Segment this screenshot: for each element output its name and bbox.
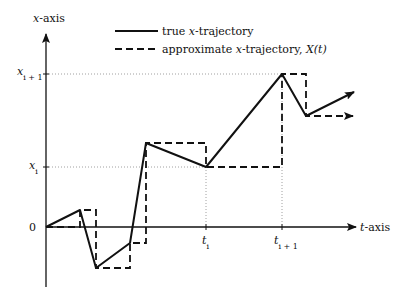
true-trajectory [46, 74, 354, 268]
approximate-trajectory [46, 74, 353, 268]
legend: true x-trajectory approximate x-trajecto… [115, 25, 327, 56]
x-axis-label: x-axis [33, 12, 65, 25]
dotted-guides [49, 74, 282, 224]
trajectory-diagram: x-axis t-axis 0 xi + 1 xi ti ti + 1 true… [0, 0, 407, 300]
y-tick-x-i: xi [29, 159, 38, 176]
t-axis-label: t-axis [360, 221, 390, 234]
origin-label: 0 [29, 221, 36, 234]
t-tick-t-i: ti [202, 234, 209, 251]
legend-solid-label: true x-trajectory [162, 25, 254, 38]
legend-dashed-label: approximate x-trajectory, X(t) [162, 43, 327, 56]
t-tick-t-i-plus-1: ti + 1 [274, 234, 298, 251]
y-tick-x-i-plus-1: xi + 1 [17, 65, 43, 82]
